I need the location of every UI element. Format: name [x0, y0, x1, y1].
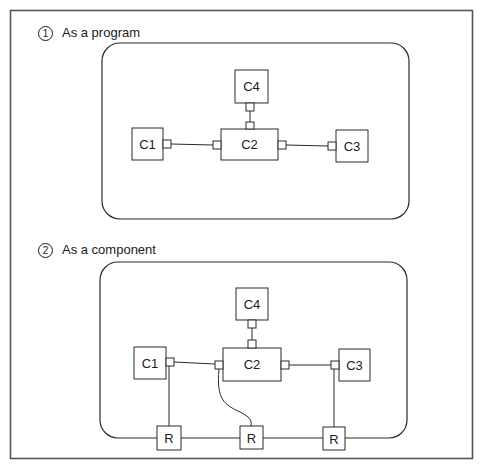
circled-number-1-icon: 1: [38, 26, 53, 41]
port-c3-left: [331, 361, 339, 369]
component-c3: C3: [328, 130, 368, 162]
circled-number-2-icon: 2: [38, 243, 53, 258]
port-c2-right: [281, 361, 289, 369]
component-c2: C2: [213, 122, 286, 160]
component-c4-label: C4: [244, 297, 261, 312]
port-c4-bottom: [248, 320, 256, 328]
section-component-title: As a component: [62, 242, 156, 258]
port-c2-top: [246, 122, 254, 129]
relay-r1: R: [157, 426, 181, 450]
port-c1-right: [166, 358, 174, 366]
component-c2-label: C2: [241, 137, 258, 152]
component-c4: C4: [236, 288, 268, 328]
component-c2-label: C2: [244, 357, 261, 372]
component-c4-label: C4: [243, 79, 260, 94]
component-c1: C1: [132, 128, 171, 160]
port-c1-right: [163, 140, 171, 148]
section-program-title: As a program: [62, 25, 140, 41]
port-c2-left: [213, 141, 221, 149]
port-c3-left: [328, 142, 336, 150]
component-c4: C4: [235, 70, 268, 111]
section-component: C4 C2 C1 C3: [100, 262, 407, 450]
component-c3: C3: [331, 349, 370, 381]
port-c2-left: [215, 361, 223, 369]
connector-c2-c3: [286, 145, 328, 146]
architecture-diagram: C4 C2 C1 C3: [0, 0, 482, 465]
component-c3-label: C3: [344, 139, 361, 154]
port-c4-bottom: [246, 103, 254, 111]
section-program: C4 C2 C1 C3: [102, 43, 409, 219]
port-c2-right: [278, 141, 286, 149]
connector-c1-c2: [174, 362, 215, 364]
connector-c1-c2: [171, 144, 213, 145]
relay-r2-label: R: [247, 431, 256, 446]
component-c1-label: C1: [139, 137, 156, 152]
relay-r2: R: [240, 426, 263, 449]
relay-r1-label: R: [164, 431, 173, 446]
component-c1: C1: [134, 347, 174, 379]
relay-r3-label: R: [329, 432, 338, 447]
relay-r3: R: [323, 427, 345, 450]
port-c2-top: [248, 340, 256, 348]
section-component-heading: 2 As a component: [38, 242, 156, 258]
component-c3-label: C3: [346, 358, 363, 373]
component-c1-label: C1: [142, 356, 159, 371]
component-c2: C2: [215, 340, 289, 381]
section-program-heading: 1 As a program: [38, 25, 140, 41]
